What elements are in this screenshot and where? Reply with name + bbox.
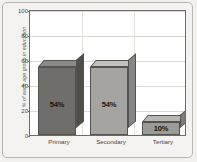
xlabel-tertiary: Tertiary [137,138,189,145]
xlabel-primary: Primary [33,138,85,145]
bar-tertiary-value-label: 10% [142,124,180,133]
bar-primary[interactable]: 54% [38,67,76,135]
ytick-label-80: 80 [21,33,28,39]
x-axis-labels: Primary Secondary Tertiary [29,138,186,150]
bar-primary-side [76,53,84,128]
bar-secondary[interactable]: 54% [90,67,128,135]
ytick-label-100: 100 [18,8,28,14]
bar-tertiary-side [180,108,185,128]
bar-secondary-value-label: 54% [90,100,128,109]
ytick-label-40: 40 [21,83,28,89]
xlabel-secondary: Secondary [85,138,137,145]
ytick-label-20: 20 [21,108,28,114]
bar-tertiary[interactable]: 10% [142,122,180,135]
bars-group: 54% 54% [30,11,185,135]
ytick-label-60: 60 [21,58,28,64]
chart-figure: % of each age group in education [4,4,193,158]
bar-secondary-side [128,53,136,128]
bar-tertiary-top [142,115,185,122]
chart-screenshot: % of each age group in education [0,0,197,162]
y-axis-title: % of each age group in education [21,13,27,121]
bar-primary-value-label: 54% [38,100,76,109]
plot-area: 54% 54% [29,10,186,136]
plot-inner: 54% 54% [30,11,185,135]
ytick-label-0: 0 [25,133,28,139]
